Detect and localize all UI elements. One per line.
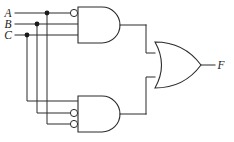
output-label-f: F	[216, 59, 225, 71]
inverter-bubble-bottom-input-c	[70, 120, 77, 127]
logic-circuit-diagram: A B C	[0, 0, 234, 142]
and-gate-bottom-body	[78, 96, 120, 132]
wire-branch-b-to-bottom	[37, 24, 70, 113]
wire-and-bottom-to-or	[146, 77, 155, 114]
circuit-canvas: A B C	[0, 0, 234, 142]
inverter-bubble-bottom-input-b	[70, 109, 77, 116]
wire-branch-a-to-bottom	[47, 13, 70, 124]
and-gate-top-body	[78, 7, 120, 43]
junction-dot-c	[25, 33, 30, 38]
wire-and-top-to-or	[146, 25, 155, 53]
input-label-c: C	[4, 29, 12, 41]
inverter-bubble-top-input-a	[70, 9, 77, 16]
wire-branch-c-to-bottom	[27, 35, 78, 101]
junction-dot-a	[45, 11, 50, 16]
junction-dot-b	[35, 22, 40, 27]
or-gate-body	[155, 42, 201, 88]
